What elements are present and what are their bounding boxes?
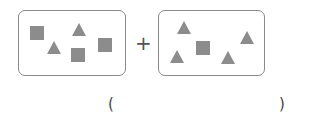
triangle-shape [47, 41, 61, 54]
square-shape [71, 48, 85, 62]
triangle-shape [221, 51, 235, 64]
square-shape [98, 38, 112, 52]
answer-open-paren: ( [108, 96, 114, 112]
square-shape [30, 26, 44, 40]
triangle-shape [170, 50, 184, 63]
triangle-shape [177, 21, 191, 34]
answer-close-paren: ) [279, 96, 285, 112]
triangle-shape [240, 31, 254, 44]
triangle-shape [72, 23, 86, 36]
square-shape [196, 41, 210, 55]
plus-operator: + [135, 33, 152, 53]
